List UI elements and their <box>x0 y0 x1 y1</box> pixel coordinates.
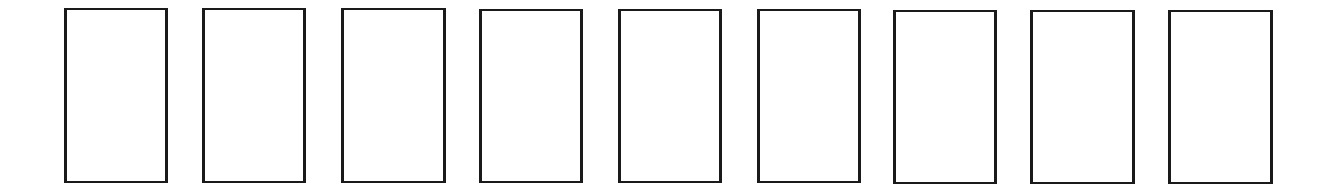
empty-box-1 <box>64 8 168 183</box>
empty-box-2 <box>202 8 306 183</box>
diagram-canvas <box>0 0 1327 190</box>
empty-box-6 <box>757 9 861 183</box>
empty-box-8 <box>1030 10 1135 184</box>
empty-box-5 <box>618 9 722 183</box>
empty-box-3 <box>341 8 446 183</box>
empty-box-4 <box>479 9 583 183</box>
empty-box-7 <box>893 10 997 184</box>
empty-box-9 <box>1168 10 1273 184</box>
